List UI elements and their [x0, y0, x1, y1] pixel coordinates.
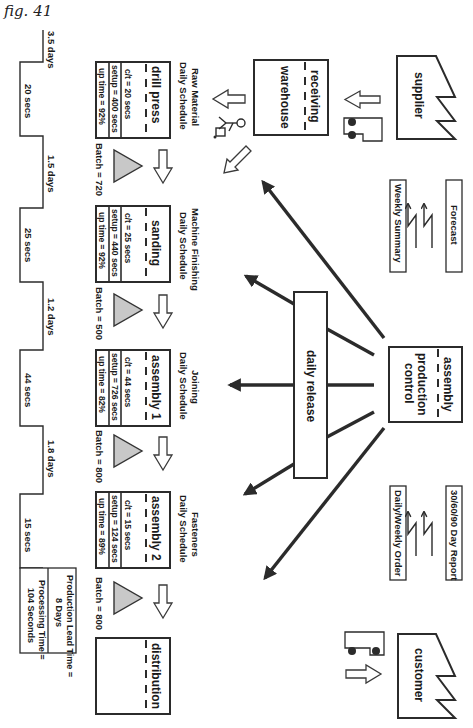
inventory-triangle-icon — [114, 435, 142, 467]
warehouse-label: warehouse — [278, 65, 292, 129]
cycle-time: c/t = 20 secs — [123, 69, 133, 120]
report-info: 30/60/90 Day Report — [446, 486, 462, 581]
timeline-secs: 44 secs — [23, 373, 34, 407]
schedule-arrow-assembly2 — [245, 464, 294, 494]
schedule-label: Raw Material — [190, 68, 201, 126]
inventory-3: Batch = 800 — [94, 430, 172, 483]
batch-label: Batch = 500 — [94, 287, 105, 340]
schedule-label: Daily Schedule — [178, 495, 189, 563]
timeline-secs: 15 secs — [23, 518, 34, 552]
order-info: Daily/Weekly Order — [390, 486, 406, 580]
diagonal-push-arrow-icon — [224, 146, 251, 173]
process-sanding: Machine Finishing Daily Schedule sanding… — [96, 206, 201, 291]
electronic-info-arrows-bottom — [408, 512, 432, 556]
report-label: 30/60/90 Day Report — [449, 490, 460, 581]
process-name: assembly 1 — [149, 355, 163, 420]
timeline: 3.5 days 1.5 days 1.2 days 1.8 days 20 s… — [20, 30, 57, 568]
push-arrow-icon — [154, 150, 172, 183]
daily-release-label: daily release — [304, 350, 318, 422]
lead-time-label: Production Lead Time = — [65, 575, 75, 677]
weekly-summary-label: Weekly Summary — [393, 184, 404, 263]
truck-wheel-icon — [348, 131, 356, 139]
lead-time-value: 8 Days — [54, 598, 64, 627]
setup-time: setup = 124 secs — [110, 495, 120, 563]
timeline-secs: 20 secs — [23, 84, 34, 118]
production-control: assembly production control — [389, 347, 462, 422]
uptime: up time = 89% — [97, 498, 107, 555]
control-to-release-line — [327, 412, 374, 437]
setup-time: setup = 400 secs — [110, 65, 120, 133]
batch-label: Batch = 720 — [94, 143, 105, 196]
schedule-label: Machine Finishing — [190, 208, 201, 291]
electronic-arrow-icon — [424, 512, 432, 556]
process-name: assembly 2 — [149, 496, 163, 561]
customer-shipment — [345, 632, 384, 683]
process-drill-press: Raw Material Daily Schedule drill press … — [96, 62, 201, 138]
inventory-1: Batch = 720 — [94, 143, 172, 196]
forecast-label: Forecast — [449, 205, 460, 245]
inventory-4: Batch = 800 — [94, 577, 172, 630]
raw-material-flow — [213, 90, 251, 173]
timeline-days: 1.8 days — [46, 440, 57, 478]
supplier-label: supplier — [412, 72, 426, 119]
truck-wheel-icon — [348, 118, 356, 126]
batch-label: Batch = 800 — [94, 577, 105, 630]
schedule-label: Daily Schedule — [178, 62, 189, 130]
timeline-days: 1.5 days — [46, 155, 57, 193]
distribution-label: distribution — [149, 643, 163, 709]
uptime: up time = 92% — [97, 212, 107, 269]
push-arrow-icon — [154, 585, 172, 618]
operator-icon — [214, 117, 246, 139]
push-arrow-icon — [154, 437, 172, 470]
process-name: sanding — [149, 220, 163, 266]
customer-label: customer — [412, 648, 426, 702]
push-arrow-icon — [154, 295, 172, 328]
receiving-label: receiving — [308, 70, 322, 123]
control-to-release-line — [327, 329, 374, 355]
schedule-label: Joining — [190, 370, 201, 404]
batch-label: Batch = 800 — [94, 430, 105, 483]
shipment-arrow-icon — [345, 91, 380, 108]
push-arrow-icon — [213, 90, 245, 108]
receiving-warehouse: receiving warehouse — [254, 60, 328, 135]
shipment-arrow-icon — [346, 665, 381, 683]
inventory-triangle-icon — [114, 294, 142, 326]
schedule-label: Fasteners — [190, 512, 201, 557]
control-line2: production — [415, 353, 429, 416]
electronic-arrow-icon — [424, 204, 432, 248]
supplier-factory: supplier — [397, 56, 455, 139]
process-name: drill press — [149, 66, 163, 124]
inventory-triangle-icon — [114, 150, 142, 182]
schedule-label: Daily Schedule — [178, 352, 189, 420]
timeline-days: 3.5 days — [46, 31, 57, 69]
value-stream-map: supplier receiving warehouse Forecast — [0, 0, 473, 728]
control-line1: assembly — [441, 357, 455, 412]
processing-time-label: Processing Time = — [37, 580, 47, 660]
distribution-box: distribution — [96, 638, 170, 714]
forecast-info: Forecast — [446, 180, 462, 272]
electronic-arrow-icon — [408, 204, 416, 248]
electronic-arrow-icon — [408, 512, 416, 556]
uptime: up time = 82% — [97, 356, 107, 413]
daily-release: daily release — [294, 292, 327, 478]
cycle-time: c/t = 25 secs — [123, 213, 133, 264]
setup-time: setup = 440 secs — [110, 209, 120, 277]
timeline-secs: 25 secs — [23, 228, 34, 262]
control-line3: control — [402, 363, 416, 404]
lead-time-summary: Production Lead Time = 8 Days Processing… — [20, 568, 76, 677]
setup-time: setup = 726 secs — [110, 353, 120, 421]
schedule-label: Daily Schedule — [178, 212, 189, 280]
processing-time-value: 104 Seconds — [26, 588, 36, 643]
customer-factory: customer — [398, 634, 455, 718]
uptime: up time = 92% — [97, 68, 107, 125]
supplier-shipment — [344, 91, 382, 141]
timeline-days: 1.2 days — [46, 298, 57, 336]
truck-wheel-icon — [348, 647, 356, 655]
inventory-triangle-icon — [114, 582, 142, 614]
schedule-arrow-sanding — [246, 276, 294, 304]
order-label: Daily/Weekly Order — [393, 490, 404, 577]
process-assembly-1: Joining Daily Schedule assembly 1 c/t = … — [96, 350, 201, 426]
inventory-2: Batch = 500 — [94, 287, 172, 340]
cycle-time: c/t = 15 secs — [123, 500, 133, 551]
weekly-summary-info: Weekly Summary — [390, 180, 406, 272]
